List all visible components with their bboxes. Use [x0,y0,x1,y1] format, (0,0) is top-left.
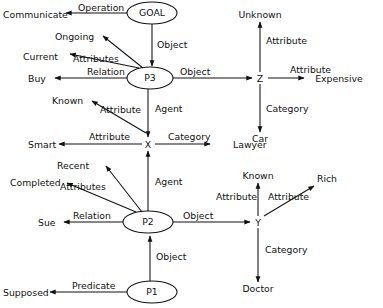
node-z-label[interactable]: Z [257,73,263,84]
edge-label-operation: Operation [78,2,124,13]
node-p1[interactable]: P1 [127,281,177,303]
edge-label-object-p3-z: Object [180,66,211,77]
diagram-canvas: Operation Object Attributes Relation Obj… [0,0,383,308]
edge-group: Operation Object Attributes Relation Obj… [50,2,331,292]
terminal-doctor: Doctor [242,283,273,294]
edge-label-category-x-lawyer: Category [168,131,211,142]
edge-label-category-z-car: Category [266,103,309,114]
edge-label-object-goal-p3: Object [157,39,188,50]
node-p1-label: P1 [146,286,158,297]
terminal-recent: Recent [57,160,89,171]
edge-label-agent-p3-x: Agent [155,103,183,114]
terminal-unknown: Unknown [238,9,281,20]
terminal-current: Current [23,51,58,62]
edge-label-attribute-x-smart: Attribute [89,131,130,142]
edge-label-relation-p2: Relation [73,210,111,221]
terminal-completed: Completed [10,177,61,188]
node-goal[interactable]: GOAL [127,2,177,24]
edge-label-object-p2-y: Object [183,210,214,221]
node-p2-label: P2 [142,216,154,227]
edge-label-object-p1-p2: Object [156,251,187,262]
terminal-rich: Rich [317,173,337,184]
edge-label-attribute-p3-known: Attribute [100,104,141,115]
terminal-smart: Smart [28,139,56,150]
edge-p2-recent [106,166,142,212]
edge-label-category-y-doctor: Category [265,244,308,255]
edge-label-attributes-p3: Attributes [73,53,119,64]
node-group: GOAL P3 P2 P1 X Y Z [123,2,263,303]
edge-label-agent-p2-x: Agent [155,176,183,187]
edge-label-attribute-y-known: Attribute [216,191,257,202]
node-p2[interactable]: P2 [123,211,173,233]
node-y-label[interactable]: Y [254,217,261,228]
node-x-label[interactable]: X [145,139,152,150]
terminal-supposed: Supposed [3,287,49,298]
node-goal-label: GOAL [139,7,166,18]
terminal-communicate: Communicate [3,9,68,20]
node-p3-label: P3 [144,72,156,83]
terminal-lawyer: Lawyer [233,139,267,150]
node-p3[interactable]: P3 [127,67,173,89]
edge-label-predicate-p1: Predicate [72,280,116,291]
terminal-known-upper: Known [52,95,83,106]
edge-label-attribute-z-unknown: Attribute [266,35,307,46]
terminal-sue: Sue [38,217,56,228]
terminal-ongoing: Ongoing [55,31,94,42]
terminal-known-lower: Known [242,170,273,181]
edge-label-attributes-p2: Attributes [60,181,106,192]
terminal-expensive: Expensive [315,73,363,84]
terminal-buy: Buy [28,73,46,84]
semantic-network-diagram: Operation Object Attributes Relation Obj… [0,0,383,308]
edge-label-relation-p3: Relation [87,66,125,77]
edge-label-attribute-y-rich: Attribute [268,191,309,202]
